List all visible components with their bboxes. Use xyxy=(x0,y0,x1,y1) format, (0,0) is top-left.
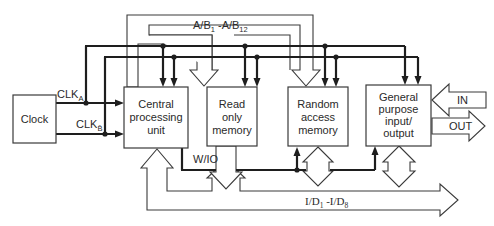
rom-block: Read only memory xyxy=(207,87,257,146)
write-io-label: W/IO xyxy=(193,153,218,165)
svg-text:access: access xyxy=(301,111,336,123)
svg-text:Read: Read xyxy=(219,98,245,110)
data-bus xyxy=(141,146,458,216)
svg-text:memory: memory xyxy=(298,124,338,136)
svg-text:memory: memory xyxy=(212,124,252,136)
svg-text:input/: input/ xyxy=(385,115,413,127)
svg-text:General: General xyxy=(379,91,418,103)
clk-b-label: CLKB̄ xyxy=(76,118,102,133)
block-diagram: Clock Central processing unit Read only … xyxy=(0,0,494,226)
svg-text:only: only xyxy=(222,111,243,123)
svg-text:purpose: purpose xyxy=(379,103,419,115)
clk-a-label: CLKA xyxy=(57,88,83,103)
io-arrows xyxy=(432,84,486,141)
svg-text:Random: Random xyxy=(297,98,339,110)
in-label: IN xyxy=(457,94,468,106)
svg-text:unit: unit xyxy=(147,124,165,136)
svg-text:Clock: Clock xyxy=(21,113,49,125)
svg-text:output: output xyxy=(383,127,414,139)
ram-block: Random access memory xyxy=(288,87,348,146)
clock-block: Clock xyxy=(13,95,56,143)
svg-text:processing: processing xyxy=(129,111,182,123)
out-label: OUT xyxy=(449,120,473,132)
gpio-block: General purpose input/ output xyxy=(366,85,431,146)
svg-text:Central: Central xyxy=(138,98,173,110)
cpu-block: Central processing unit xyxy=(124,87,188,148)
